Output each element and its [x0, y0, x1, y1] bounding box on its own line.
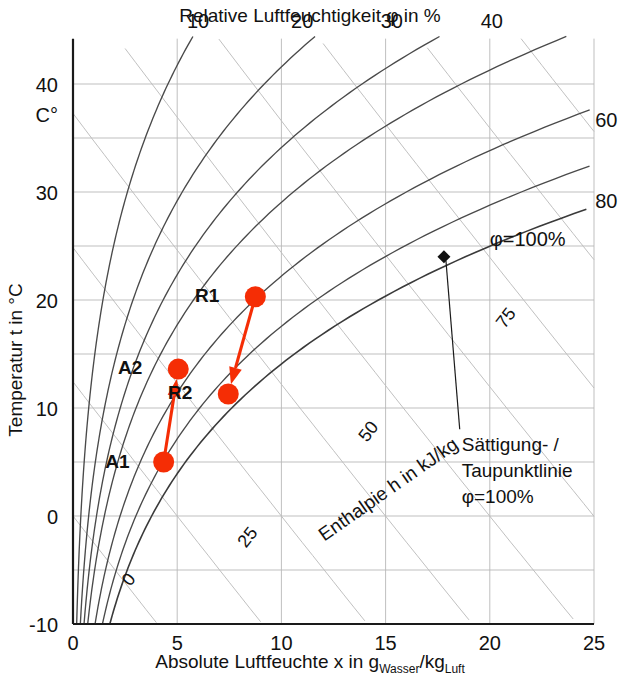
x-tick-label-25: 25 [583, 632, 605, 654]
x-axis-title-sub1: Wasser [379, 662, 419, 676]
y-tick-label-20: 20 [36, 290, 58, 312]
chart-canvas: Relative Luftfeuchtigkeit φ in % 4030201… [0, 0, 621, 682]
x-axis-title-main1: Absolute Luftfeuchte x in g [155, 651, 379, 672]
x-axis-title-main2: /kg [419, 651, 444, 672]
rh-curve-label-80: 80 [595, 190, 617, 212]
rh-curve-label-40: 40 [481, 10, 503, 32]
annotation-line-3: φ=100% [462, 486, 534, 507]
x-axis-title: Absolute Luftfeuchte x in gWasser/kgLuft [155, 651, 465, 676]
enthalpy-label-75: 75 [492, 304, 520, 332]
y-axis-unit-note: C° [36, 104, 58, 126]
enthalpy-axis-title: Enthalpie h in kJ/kg [315, 433, 462, 545]
data-point-label-A1: A1 [105, 451, 130, 472]
x-axis-title-sub2: Luft [445, 662, 466, 676]
enthalpy-labels: 0255075Enthalpie h in kJ/kg [118, 304, 520, 590]
y-tick-label-10: 10 [36, 398, 58, 420]
y-tick-label-30: 30 [36, 182, 58, 204]
data-point-label-A2: A2 [118, 357, 142, 378]
y-tick-label-0: 0 [47, 506, 58, 528]
annotations: Sättigung- /Taupunktlinieφ=100% [437, 250, 572, 507]
dew-point-marker [437, 250, 450, 263]
rh-curve-label-60: 60 [595, 109, 617, 131]
annotation-leader-line [446, 261, 460, 429]
annotation-line-1: Sättigung- / [462, 434, 560, 455]
y-tick-label-40: 40 [36, 74, 58, 96]
x-tick-label-20: 20 [479, 632, 501, 654]
rh-curve-20 [80, 36, 315, 624]
data-point-label-R1: R1 [195, 285, 220, 306]
data-point-A2[interactable] [168, 359, 189, 380]
data-point-A1[interactable] [153, 452, 174, 473]
enthalpy-label-50: 50 [354, 417, 382, 445]
rh-curve-label-20: 20 [291, 10, 313, 32]
enthalpy-line [73, 382, 261, 622]
data-point-R2[interactable] [218, 383, 239, 404]
enthalpy-line [125, 49, 573, 620]
x-tick-label-0: 0 [67, 632, 78, 654]
tick-labels: 403020100-100510152025 [29, 74, 605, 654]
arrow-r1-r2-head [229, 366, 242, 384]
rh-curve-label-100: φ=100% [490, 228, 566, 250]
rh-curve-label-10: 10 [187, 10, 209, 32]
data-point-label-R2: R2 [168, 382, 192, 403]
rh-curve-label-30: 30 [381, 10, 403, 32]
psychrometric-chart: Relative Luftfeuchtigkeit φ in % 4030201… [0, 0, 621, 682]
y-axis-title: Temperatur t in °C [5, 283, 26, 436]
data-point-R1[interactable] [245, 286, 266, 307]
rh-curve-100 [110, 209, 587, 624]
annotation-line-2: Taupunktlinie [462, 460, 573, 481]
enthalpy-line [521, 39, 594, 132]
y-tick-label--10: -10 [29, 614, 58, 636]
enthalpy-label-25: 25 [233, 523, 261, 551]
enthalpy-line [323, 44, 594, 389]
